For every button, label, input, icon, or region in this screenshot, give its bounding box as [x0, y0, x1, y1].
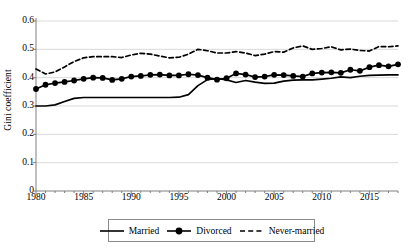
data-point-marker	[157, 72, 163, 78]
data-point-marker	[309, 71, 315, 77]
solid-line-key-icon	[99, 226, 125, 236]
data-point-marker	[90, 75, 96, 81]
data-point-marker	[109, 77, 115, 83]
data-point-marker	[319, 70, 325, 76]
data-point-marker	[176, 73, 182, 79]
legend-item-married: Married	[99, 226, 160, 236]
data-point-marker	[214, 77, 220, 83]
data-point-marker	[281, 72, 287, 78]
data-point-marker	[166, 73, 172, 79]
data-point-marker	[52, 80, 58, 86]
data-point-marker	[205, 75, 211, 81]
legend-label-never-married: Never-married	[269, 226, 325, 236]
series-line-never-married	[36, 46, 398, 74]
data-point-marker	[138, 73, 144, 79]
data-point-marker	[252, 74, 258, 80]
data-point-marker	[367, 64, 373, 70]
data-point-marker	[357, 68, 363, 74]
data-point-marker	[43, 82, 49, 88]
data-point-marker	[147, 72, 153, 78]
data-point-marker	[300, 74, 306, 80]
legend-item-never-married: Never-married	[239, 226, 325, 236]
data-point-marker	[195, 72, 201, 78]
data-point-marker	[262, 74, 268, 80]
data-point-marker	[81, 76, 87, 82]
data-point-marker	[290, 73, 296, 79]
data-point-marker	[386, 63, 392, 69]
data-point-marker	[243, 72, 249, 78]
solid-line-marker-key-icon	[166, 226, 192, 236]
data-point-marker	[62, 79, 68, 85]
data-point-marker	[376, 62, 382, 68]
data-point-marker	[347, 67, 353, 73]
gini-coefficient-line-chart: Gini coefficient 00.10.20.30.40.50.6 198…	[0, 0, 414, 252]
data-point-marker	[71, 78, 77, 84]
data-point-marker	[328, 69, 334, 75]
data-point-marker	[224, 75, 230, 81]
legend-label-divorced: Divorced	[196, 226, 231, 236]
data-point-marker	[233, 71, 239, 77]
data-point-marker	[119, 76, 125, 82]
data-point-marker	[128, 74, 134, 80]
data-point-marker	[186, 71, 192, 77]
dashed-line-key-icon	[239, 226, 265, 236]
data-point-marker	[33, 86, 39, 92]
data-point-marker	[395, 61, 401, 67]
data-point-marker	[338, 70, 344, 76]
plot-area	[0, 0, 414, 252]
chart-legend: Married Divorced Never-married	[108, 219, 315, 242]
data-point-marker	[100, 75, 106, 81]
data-point-marker	[271, 72, 277, 78]
legend-item-divorced: Divorced	[166, 226, 231, 236]
legend-label-married: Married	[129, 226, 160, 236]
